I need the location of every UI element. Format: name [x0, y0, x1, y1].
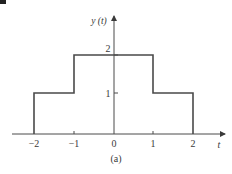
- x-tick-label: 2: [191, 138, 196, 149]
- signal-plot: −2 −1 0 1 2 1 2 y (t) t (a): [0, 0, 232, 174]
- x-tick-label: 1: [151, 138, 156, 149]
- x-tick-label: 0: [112, 138, 117, 149]
- y-axis-label: y (t): [90, 16, 107, 27]
- x-axis-label: t: [218, 139, 221, 150]
- x-tick-label: −2: [29, 138, 40, 149]
- y-tick-label: 2: [106, 43, 111, 54]
- x-tick-label: −1: [69, 138, 80, 149]
- figure-caption: (a): [110, 153, 121, 165]
- y-tick-label: 1: [106, 88, 111, 99]
- y-tick-marks: [114, 55, 118, 93]
